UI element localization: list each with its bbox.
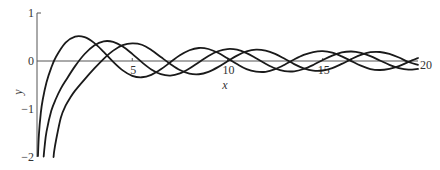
x-tick-label: 20 — [420, 58, 432, 72]
curve-y2 — [54, 43, 418, 157]
y-tick-label: −2 — [21, 150, 34, 164]
curves — [38, 36, 418, 157]
x-tick-label: 10 — [223, 63, 235, 77]
x-axis-label: x — [221, 78, 228, 92]
y-axis-label: y — [11, 89, 25, 96]
y-tick-label: 0 — [28, 54, 34, 68]
bessel-y-chart: 5101520 10−1−2 x y — [0, 0, 440, 170]
y-tick-label: 1 — [28, 6, 34, 20]
y-tick-label: −1 — [21, 102, 34, 116]
y-axis-ticks: 10−1−2 — [21, 6, 34, 164]
